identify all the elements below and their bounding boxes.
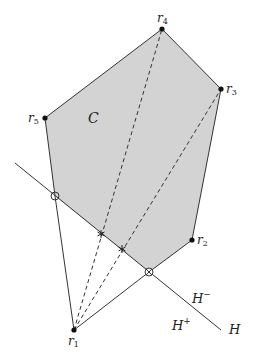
hyperplane-label-h: H (228, 322, 241, 337)
vertex-label-r2: r2 (197, 233, 208, 248)
halfspace-label-h-minus: H− (191, 289, 211, 306)
halfspace-label-h-plus: H+ (171, 316, 191, 333)
vertex-label-r3: r3 (226, 82, 237, 97)
vertex-label-r4: r4 (157, 11, 168, 26)
region-label-c: C (88, 110, 99, 126)
vertex-r5-dot (42, 115, 47, 120)
edge-r1-to-r5 (55, 196, 74, 330)
vertex-r3-dot (218, 86, 223, 91)
vertex-r2-dot (189, 237, 194, 242)
vertex-label-r1: r1 (68, 334, 79, 349)
vertex-r1-dot (71, 327, 76, 332)
vertex-r4-dot (159, 26, 164, 31)
crossed-circle-marker-icon (145, 268, 153, 276)
convex-hull-diagram: r1r2r3r4r5 C H H− H+ (0, 0, 254, 360)
vertex-label-r5: r5 (28, 111, 39, 126)
shaded-region-c (45, 29, 221, 272)
edge-r1-to-r2 (74, 272, 149, 330)
